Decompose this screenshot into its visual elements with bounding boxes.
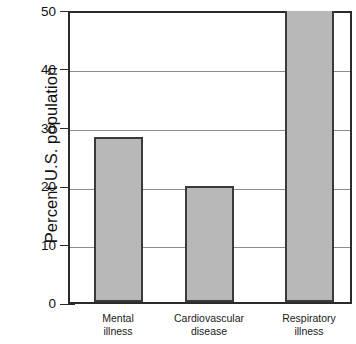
x-category-label-line2: illness xyxy=(78,325,158,338)
y-tick-label-40: 40 xyxy=(16,63,56,77)
bar-respiratory-illness[interactable] xyxy=(285,11,334,302)
x-category-label-mental-illness: Mental illness xyxy=(78,312,158,337)
y-tick-mark-0 xyxy=(60,304,75,305)
x-category-label-line2: disease xyxy=(161,325,257,338)
y-tick-label-0: 0 xyxy=(16,297,56,311)
plot-area xyxy=(68,11,352,304)
y-tick-label-20: 20 xyxy=(16,180,56,194)
y-tick-label-30: 30 xyxy=(16,122,56,136)
bar-cardiovascular-disease[interactable] xyxy=(185,186,234,302)
bar-mental-illness[interactable] xyxy=(94,137,143,302)
y-axis-title: Percent U.S. population xyxy=(40,10,62,300)
x-category-label-line1: Mental xyxy=(102,312,134,324)
bar-chart: Percent U.S. population 50 40 30 20 10 0… xyxy=(0,0,356,344)
x-category-label-respiratory-illness: Respiratory illness xyxy=(268,312,350,337)
x-category-label-cardiovascular-disease: Cardiovascular disease xyxy=(161,312,257,337)
x-category-label-line1: Cardiovascular xyxy=(174,312,244,324)
x-category-label-line2: illness xyxy=(268,325,350,338)
x-category-label-line1: Respiratory xyxy=(282,312,336,324)
plot-inner xyxy=(70,13,350,302)
y-tick-label-50: 50 xyxy=(16,5,56,19)
y-tick-label-10: 10 xyxy=(16,239,56,253)
